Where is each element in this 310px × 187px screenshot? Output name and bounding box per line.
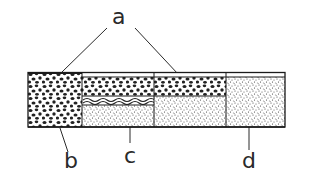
label-b: b	[64, 150, 78, 172]
label-a: a	[112, 6, 125, 28]
coarse-gravel-block-b	[28, 73, 82, 127]
label-c: c	[124, 145, 136, 167]
label-d: d	[242, 150, 256, 172]
layer-cross-section	[0, 0, 310, 187]
